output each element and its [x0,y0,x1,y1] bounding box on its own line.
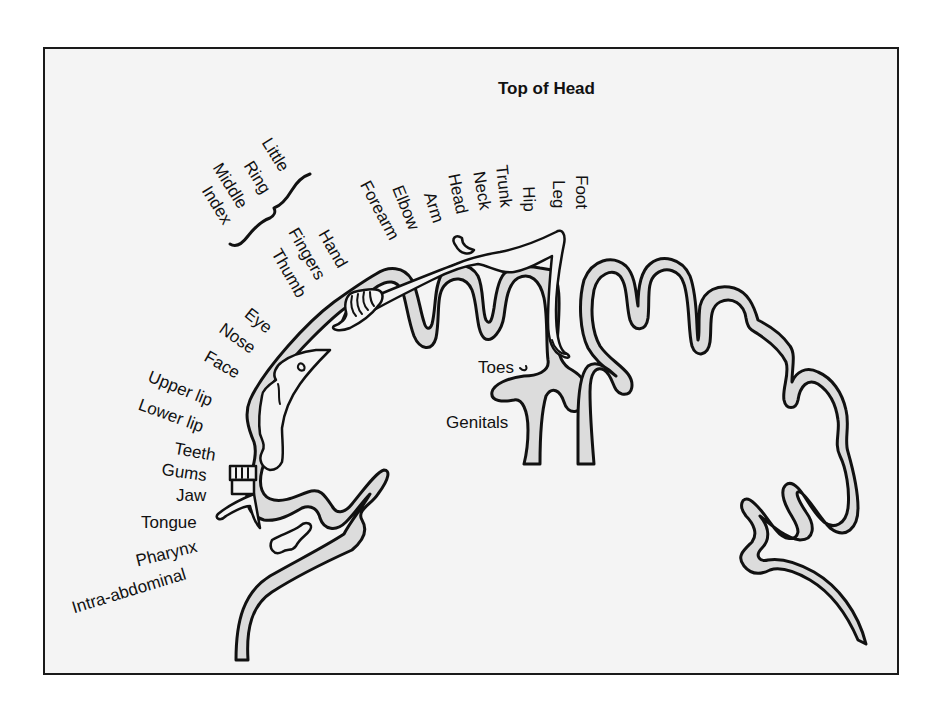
homunculus-head [454,236,474,253]
hip-label: Hip [520,186,538,212]
cortex-homunculus-illustration [0,0,934,716]
trunk-label: Trunk [493,164,514,208]
homunculus-pharynx [271,523,311,553]
top-of-head-label: Top of Head [498,80,595,97]
homunculus-jaw [232,480,254,494]
left-hemisphere-cortex [236,265,587,660]
genitals-mark [520,366,527,370]
leg-label: Leg [550,180,567,208]
toes-label: Toes [478,359,514,376]
tongue-label: Tongue [141,514,197,531]
foot-label: Foot [573,175,590,209]
jaw-label: Jaw [176,487,206,504]
homunculus-tongue [217,494,260,528]
right-hemisphere-cortex [578,259,866,644]
genitals-label: Genitals [446,414,508,431]
